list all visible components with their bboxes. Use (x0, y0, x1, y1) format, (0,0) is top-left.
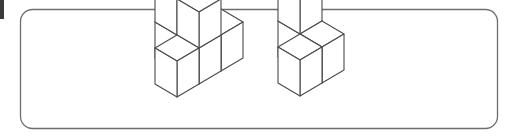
figure-canvas (0, 0, 513, 138)
page-edge-mark (0, 0, 4, 19)
rounded-panel (21, 10, 498, 129)
cube (155, 35, 199, 97)
drawing-stage (0, 0, 513, 138)
cube (278, 34, 322, 96)
